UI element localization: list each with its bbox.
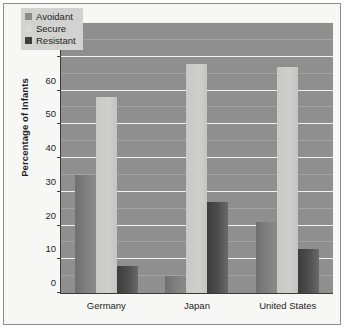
bar-resistant-germany [117,266,138,293]
x-axis-tick-label: Germany [87,300,126,311]
bar-secure-japan [186,64,207,294]
y-axis-tick-label: 60 [12,74,56,85]
bar-resistant-united-states [298,249,319,293]
bar-resistant-japan [207,202,228,293]
y-axis-tick-label: 10 [12,243,56,254]
legend-item: Secure [25,23,76,34]
legend-item-label: Avoidant [36,11,73,22]
legend-item: Resistant [25,35,76,46]
bar-secure-united-states [277,67,298,293]
chart-legend: AvoidantSecureResistant [21,8,83,50]
legend-item: Avoidant [25,11,76,22]
plot-area: 01020304050607080 GermanyJapanUnited Sta… [60,23,333,294]
bar-group [242,23,333,293]
bar-series-container [61,23,333,293]
x-axis-tick-label: Japan [184,300,210,311]
legend-swatch-avoidant [25,13,32,20]
y-axis-tick-label: 40 [12,142,56,153]
legend-swatch-resistant [25,37,32,44]
y-axis-tick-label: 30 [12,175,56,186]
y-axis-tick-label: 0 [12,277,56,288]
bar-avoidant-united-states [256,222,277,293]
bar-secure-germany [96,97,117,293]
x-axis-tick-label: United States [259,300,316,311]
bar-group [152,23,243,293]
bar-avoidant-germany [75,175,96,293]
y-axis-tick-label: 20 [12,209,56,220]
bar-avoidant-japan [165,276,186,293]
legend-item-label: Secure [36,23,66,34]
legend-item-label: Resistant [36,35,76,46]
bar-group [61,23,152,293]
legend-swatch-secure [25,25,32,32]
chart-figure: Percentage of Infants 01020304050607080 … [3,3,341,325]
y-axis-tick-label: 50 [12,108,56,119]
